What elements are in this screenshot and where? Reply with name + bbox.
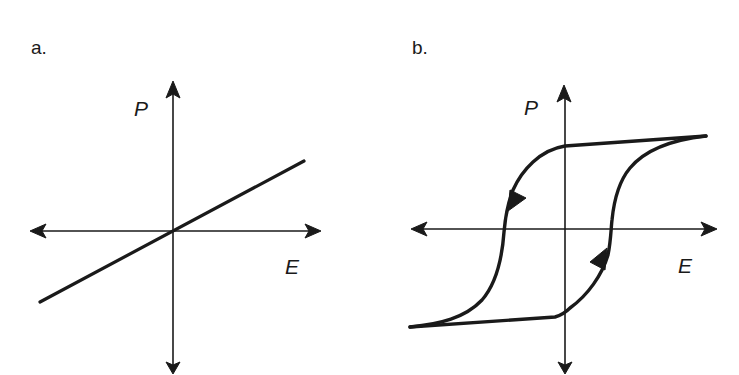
panel-b-y-axis-up-arrow-icon [557,85,571,102]
panel-a-graphics [30,81,321,374]
figure-canvas [0,0,739,375]
panel-b-hysteresis-upper-branch [410,136,706,327]
panel-b-graphics [410,85,717,374]
panel-b-downward-direction-arrow-icon [508,190,526,211]
panel-b-hysteresis-lower-branch [410,136,706,327]
panel-b-upward-direction-arrow-icon [590,248,607,270]
